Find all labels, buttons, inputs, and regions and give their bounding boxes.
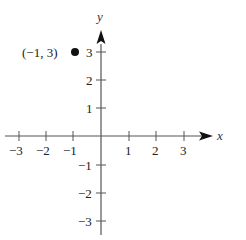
point-label: (−1, 3) [22, 45, 58, 60]
x-axis-label: x [216, 128, 223, 143]
x-tick-label: 3 [180, 143, 187, 158]
y-axis-arrow-icon [97, 30, 106, 44]
y-tick-label: −2 [78, 186, 92, 201]
x-tick-label: −1 [63, 143, 77, 158]
coordinate-plane: x y −3 −2 −1 1 2 3 3 2 1 −1 −2 −3 (−1, 3… [0, 0, 246, 240]
y-tick-label: 3 [86, 45, 93, 60]
x-tick-label: −3 [9, 143, 23, 158]
data-point [71, 48, 79, 56]
y-tick-label: 1 [86, 101, 93, 116]
x-tick-label: −2 [36, 143, 50, 158]
y-tick-label: −1 [78, 158, 92, 173]
y-axis-label: y [95, 9, 103, 24]
x-tick-label: 2 [152, 143, 159, 158]
x-tick-label: 1 [125, 143, 132, 158]
y-tick-label: 2 [86, 73, 93, 88]
y-tick-label: −3 [78, 214, 92, 229]
